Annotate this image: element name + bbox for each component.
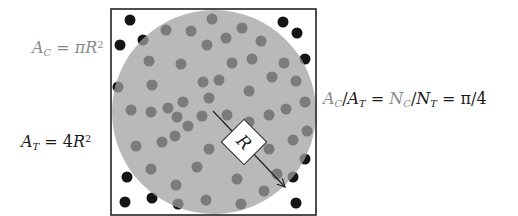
sample-point [281, 104, 292, 115]
sample-point [146, 107, 157, 118]
sample-point [161, 25, 172, 36]
sample-point [236, 199, 247, 210]
sample-point [170, 131, 181, 142]
sample-point [192, 162, 203, 173]
pi-symbol: π [75, 38, 86, 57]
sample-point [227, 58, 238, 69]
sample-point [176, 59, 187, 70]
sample-point [131, 141, 142, 152]
sample-point [278, 17, 289, 28]
sample-point [183, 121, 194, 132]
sample-point [171, 180, 182, 191]
coefficient: 4 [63, 132, 73, 151]
sample-point [198, 77, 209, 88]
radius-symbol: R [73, 132, 85, 151]
sample-point [115, 40, 126, 51]
equals-sign: = [366, 89, 390, 108]
pi-over-four: π/4 [460, 89, 486, 108]
sample-point [237, 23, 248, 34]
square-area-symbol: A [348, 89, 360, 108]
sample-point [120, 197, 131, 208]
sample-point [197, 111, 208, 122]
square-area-equation: AT = 4R2 [21, 134, 91, 152]
total-count-symbol: N [416, 89, 430, 108]
sample-point [244, 86, 255, 97]
sample-point [144, 56, 155, 67]
sample-point [204, 93, 215, 104]
sample-point [267, 72, 278, 83]
sample-point [264, 144, 275, 155]
sample-point [279, 58, 290, 69]
sample-point [292, 28, 303, 39]
circle-count-symbol: N [389, 89, 403, 108]
sample-point [157, 137, 168, 148]
sample-point [172, 112, 183, 123]
sample-point [147, 80, 158, 91]
sample-point [126, 105, 137, 116]
sample-point [178, 97, 189, 108]
sample-point [201, 195, 212, 206]
sample-point [214, 75, 225, 86]
sample-point [291, 76, 302, 87]
sample-point [300, 97, 311, 108]
exponent: 2 [85, 133, 91, 144]
circle-area-equation: AC = πR2 [32, 40, 104, 58]
sample-point [259, 186, 270, 197]
exponent: 2 [97, 39, 103, 50]
sample-point [125, 15, 136, 26]
sample-point [221, 33, 232, 44]
sample-point [207, 14, 218, 25]
ratio-equation: AC/AT = NC/NT = π/4 [323, 91, 487, 109]
equals-sign: = [437, 89, 461, 108]
sample-point [288, 135, 299, 146]
square-subscript: T [359, 98, 366, 109]
circle-area-symbol: A [323, 89, 335, 108]
equals-sign: = [51, 38, 75, 57]
sample-point [291, 198, 302, 209]
radius-symbol: R [85, 38, 97, 57]
sample-point [186, 26, 197, 37]
circle-area-symbol: A [32, 38, 44, 57]
sample-point [222, 110, 233, 121]
circle-count-subscript: C [403, 98, 411, 109]
sample-point [202, 40, 213, 51]
sample-point [256, 36, 267, 47]
sample-point [204, 144, 215, 155]
sample-point [247, 54, 258, 65]
sample-point [163, 103, 174, 114]
equals-sign: = [39, 132, 63, 151]
square-area-symbol: A [21, 132, 33, 151]
sample-point [264, 110, 275, 121]
total-count-subscript: T [430, 98, 437, 109]
sample-point [302, 126, 313, 137]
sample-point [232, 174, 243, 185]
sample-point [122, 172, 133, 183]
sample-point [146, 164, 157, 175]
